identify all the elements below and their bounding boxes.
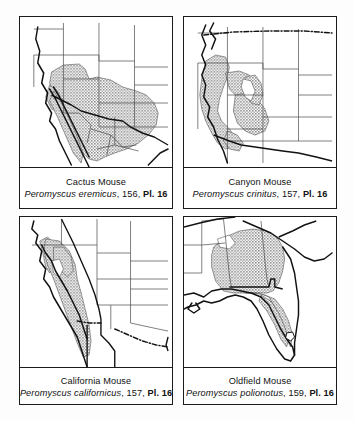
caption-canyon-mouse: Canyon Mouse Peromyscus crinitus, 157, P… (184, 168, 336, 208)
scientific-name: Peromyscus californicus (20, 388, 121, 398)
map-oldfield-mouse (184, 217, 336, 367)
range-map-figure-sheet: Cactus Mouse Peromyscus eremicus, 156, P… (0, 0, 354, 421)
scientific-name: Peromyscus polionotus (186, 388, 283, 398)
scientific-reference: Peromyscus eremicus, 156, Pl. 16 (24, 188, 167, 201)
map-california-mouse (20, 217, 172, 367)
page-number: 157 (127, 388, 143, 398)
common-name: Oldfield Mouse (229, 375, 292, 387)
plate-reference: Pl. 16 (148, 388, 173, 398)
common-name: California Mouse (61, 375, 132, 387)
range-map-panel-cactus-mouse: Cactus Mouse Peromyscus eremicus, 156, P… (19, 16, 173, 209)
caption-california-mouse: California Mouse Peromyscus californicus… (20, 368, 172, 405)
caption-oldfield-mouse: Oldfield Mouse Peromyscus polionotus, 15… (184, 368, 336, 405)
caption-cactus-mouse: Cactus Mouse Peromyscus eremicus, 156, P… (20, 168, 172, 208)
map-cactus-mouse (20, 17, 172, 167)
page-number: 159 (288, 388, 304, 398)
scientific-name: Peromyscus crinitus (193, 189, 277, 199)
plate-reference: Pl. 16 (309, 388, 334, 398)
scientific-name: Peromyscus eremicus (24, 189, 116, 199)
page-number: 157 (282, 189, 298, 199)
scientific-reference: Peromyscus californicus, 157, Pl. 16 (20, 387, 172, 400)
map-canyon-mouse (184, 17, 336, 167)
scientific-reference: Peromyscus polionotus, 159, Pl. 16 (186, 387, 334, 400)
page-number: 156 (122, 189, 138, 199)
range-map-panel-california-mouse: California Mouse Peromyscus californicus… (19, 216, 173, 405)
plate-reference: Pl. 16 (303, 189, 328, 199)
range-map-panel-oldfield-mouse: Oldfield Mouse Peromyscus polionotus, 15… (183, 216, 337, 405)
scientific-reference: Peromyscus crinitus, 157, Pl. 16 (193, 188, 328, 201)
plate-reference: Pl. 16 (143, 189, 168, 199)
range-map-panel-canyon-mouse: Canyon Mouse Peromyscus crinitus, 157, P… (183, 16, 337, 209)
common-name: Canyon Mouse (229, 176, 292, 188)
common-name: Cactus Mouse (66, 176, 126, 188)
